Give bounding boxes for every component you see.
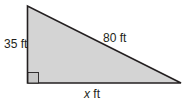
right-angle-marker <box>28 73 39 84</box>
vertical-leg-label: 35 ft <box>4 37 28 51</box>
hypotenuse-label: 80 ft <box>103 31 127 45</box>
unit-ft: ft <box>90 87 101 101</box>
horizontal-leg-label: x ft <box>83 87 101 101</box>
triangle-diagram: 35 ft 80 ft x ft <box>0 0 186 101</box>
